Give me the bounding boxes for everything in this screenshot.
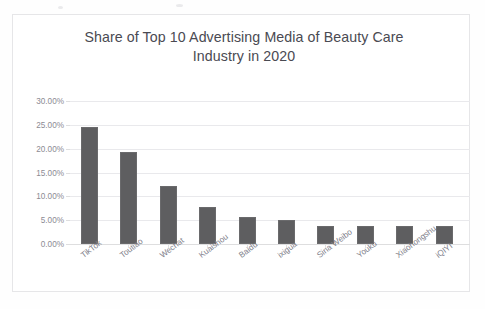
bars-group: TikTokToutiaoWechatKuaishouBaiduixiguaSi… [70, 101, 470, 244]
y-axis-tick-label: 10.00% [4, 192, 64, 201]
bar-slot: iQIYI [425, 101, 464, 244]
bar-slot: Baidu [228, 101, 267, 244]
scanned-page-background: Share of Top 10 Advertising Media of Bea… [0, 0, 485, 309]
plot-area: 30.00%25.00%20.00%15.00%10.00%5.00%0.00%… [70, 101, 470, 244]
bar-tiktok[interactable] [81, 127, 98, 244]
chart-container: Share of Top 10 Advertising Media of Bea… [12, 14, 470, 292]
bar-slot: Kuaishou [188, 101, 227, 244]
y-axis-tick-label: 20.00% [4, 144, 64, 153]
bar-slot: TikTok [70, 101, 109, 244]
bar-slot: Sina Weibo [306, 101, 345, 244]
chart-title-line-1: Share of Top 10 Advertising Media of Bea… [49, 28, 439, 47]
bar-toutiao[interactable] [120, 152, 137, 244]
y-axis-tickmark [66, 244, 70, 245]
bar-slot: Xiaohongshu [385, 101, 424, 244]
bar-slot: Toutiao [109, 101, 148, 244]
bar-slot: Youku [346, 101, 385, 244]
y-axis-tick-label: 30.00% [4, 97, 64, 106]
y-axis-tick-label: 15.00% [4, 168, 64, 177]
bar-wechat[interactable] [160, 186, 177, 244]
y-axis-tick-label: 25.00% [4, 120, 64, 129]
chart-title: Share of Top 10 Advertising Media of Bea… [49, 28, 439, 66]
scan-speck [176, 4, 183, 7]
bar-slot: Wechat [149, 101, 188, 244]
bar-iqiyi[interactable] [436, 226, 453, 244]
y-axis-tick-label: 0.00% [4, 240, 64, 249]
chart-title-line-2: Industry in 2020 [49, 47, 439, 66]
scan-speck [58, 6, 63, 9]
y-axis-tick-label: 5.00% [4, 216, 64, 225]
bar-kuaishou[interactable] [199, 207, 216, 244]
bar-slot: ixigua [267, 101, 306, 244]
